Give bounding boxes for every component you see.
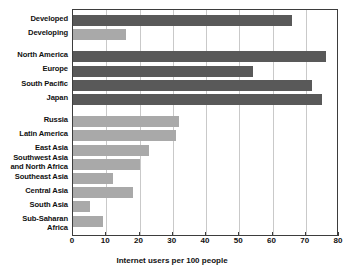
x-axis-title: Internet users per 100 people [0,256,344,265]
x-axis-ticks: 01020304050607080 [72,236,338,250]
bar-row [73,94,339,105]
category-label: Sub-Saharan Africa [0,215,68,232]
x-tick-label: 60 [267,236,276,245]
x-tick-label: 30 [167,236,176,245]
bar-row [73,173,339,184]
x-tick-mark [338,232,339,236]
bar [73,173,113,184]
category-label: South Pacific [0,80,68,89]
bar-row [73,80,339,91]
x-tick-label: 50 [234,236,243,245]
bar [73,66,253,77]
x-tick-mark [238,232,239,236]
bar-rows [73,10,337,235]
bar [73,29,126,40]
bar-row [73,15,339,26]
bar-row [73,116,339,127]
category-label: Japan [0,94,68,103]
x-tick-label: 10 [101,236,110,245]
bar [73,201,90,212]
category-label: Russia [0,116,68,125]
category-label: Developing [0,29,68,38]
x-tick-mark [72,232,73,236]
bar [73,116,179,127]
bar [73,80,312,91]
bar [73,130,176,141]
bar [73,15,292,26]
bar-row [73,216,339,227]
x-tick-mark [205,232,206,236]
bar-row [73,145,339,156]
bar-row [73,187,339,198]
category-label: Southeast Asia [0,173,68,182]
x-tick-mark [305,232,306,236]
category-label-column: DevelopedDevelopingNorth AmericaEuropeSo… [0,9,68,236]
bar-row [73,29,339,40]
x-tick-mark [272,232,273,236]
x-tick-mark [172,232,173,236]
x-tick-label: 80 [334,236,343,245]
category-label: East Asia [0,144,68,153]
bar [73,187,133,198]
bar [73,51,326,62]
category-label: North America [0,51,68,60]
bar-row [73,159,339,170]
bar-row [73,51,339,62]
category-label: South Asia [0,201,68,210]
bar [73,94,322,105]
x-tick-label: 40 [201,236,210,245]
x-tick-mark [105,232,106,236]
x-tick-label: 20 [134,236,143,245]
bar [73,159,140,170]
category-label: Developed [0,15,68,24]
bar [73,145,149,156]
x-tick-mark [139,232,140,236]
x-tick-label: 0 [70,236,74,245]
category-label: Europe [0,65,68,74]
bar-row [73,66,339,77]
internet-users-bar-chart: DevelopedDevelopingNorth AmericaEuropeSo… [0,0,344,275]
bar [73,216,103,227]
category-label: Central Asia [0,187,68,196]
bar-row [73,130,339,141]
category-label: Southwest Asia and North Africa [0,154,68,171]
category-label: Latin America [0,130,68,139]
bar-row [73,201,339,212]
x-tick-label: 70 [300,236,309,245]
plot-area [72,9,338,236]
